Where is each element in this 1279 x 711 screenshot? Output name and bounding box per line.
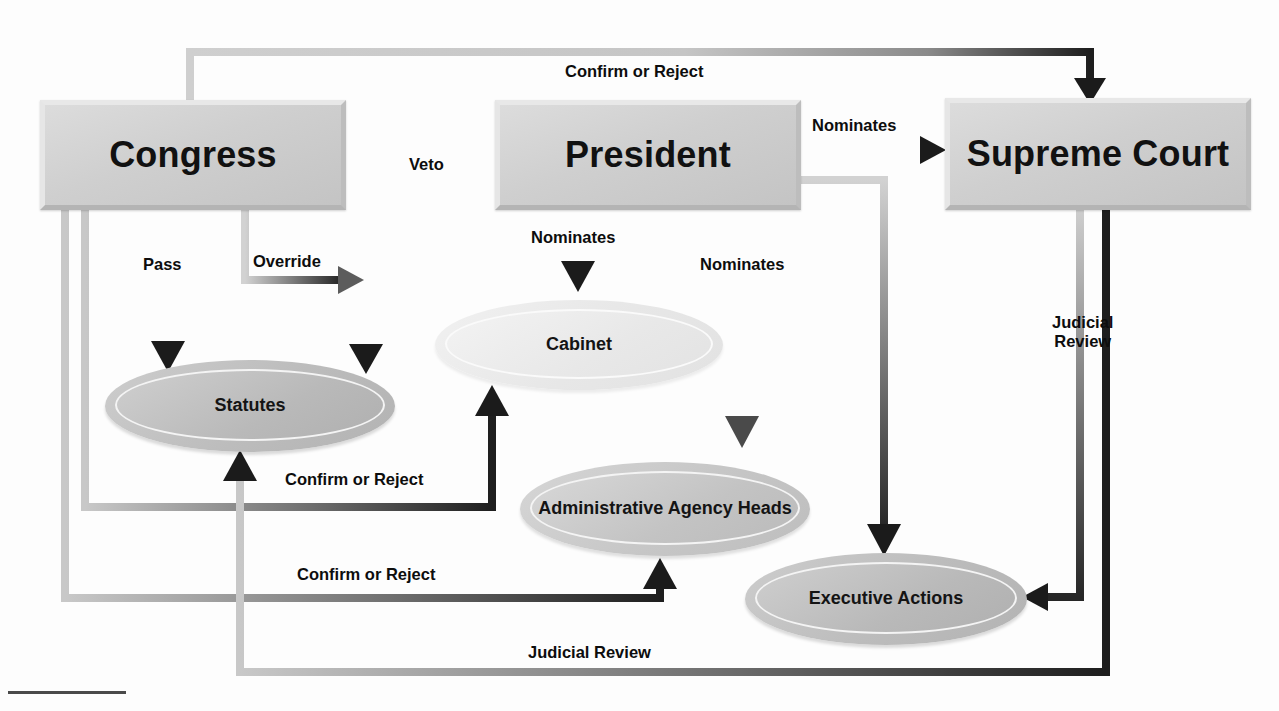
edge-congress-override-statutes	[245, 200, 364, 294]
edge-label-congress-override-statutes: Override	[253, 252, 321, 271]
edge-label-congress-confirm-supreme: Confirm or Reject	[565, 62, 703, 81]
node-statutes-label: Statutes	[214, 395, 285, 415]
edge-label-supreme-review-executive: Judicial Review	[1052, 313, 1113, 351]
edge-label-congress-confirm-cabinet: Confirm or Reject	[285, 470, 423, 489]
node-supreme-court[interactable]: Supreme Court	[945, 98, 1251, 210]
edge-label-president-veto-statutes: Veto	[409, 155, 444, 174]
node-statutes[interactable]: Statutes	[105, 360, 395, 452]
edge-president-nominates-supreme	[791, 136, 946, 164]
node-cabinet-label: Cabinet	[546, 334, 612, 354]
edge-supreme-review-executive	[1022, 200, 1080, 611]
node-executive-actions-label: Executive Actions	[809, 588, 963, 608]
node-president-label: President	[565, 134, 731, 176]
edge-label-supreme-review-statutes: Judicial Review	[528, 643, 651, 662]
node-executive-actions-body: Executive Actions	[755, 562, 1017, 634]
edge-president-nominates-agency	[725, 200, 759, 448]
node-administrative-agency-heads-label: Administrative Agency Heads	[538, 498, 791, 518]
node-executive-actions[interactable]: Executive Actions	[745, 553, 1027, 645]
edge-label-congress-pass-statutes: Pass	[143, 255, 182, 274]
page-crop-mark	[8, 691, 126, 694]
edge-label-president-nominates-supreme: Nominates	[812, 116, 896, 135]
edge-label-congress-confirm-agency: Confirm or Reject	[297, 565, 435, 584]
node-statutes-body: Statutes	[115, 369, 385, 441]
edge-label-president-nominates-cabinet: Nominates	[531, 228, 615, 247]
node-president[interactable]: President	[495, 100, 801, 210]
node-administrative-agency-heads[interactable]: Administrative Agency Heads	[520, 462, 810, 556]
node-congress[interactable]: Congress	[40, 100, 346, 210]
node-supreme-court-label: Supreme Court	[967, 133, 1230, 175]
node-cabinet-body: Cabinet	[445, 309, 713, 379]
node-congress-label: Congress	[109, 134, 277, 176]
diagram-canvas: Congress President Supreme Court Statute…	[0, 0, 1279, 711]
edge-congress-pass-statutes	[151, 200, 185, 372]
edge-label-president-nominates-agency: Nominates	[700, 255, 784, 274]
node-cabinet[interactable]: Cabinet	[435, 300, 723, 390]
node-administrative-agency-heads-body: Administrative Agency Heads	[530, 471, 800, 545]
